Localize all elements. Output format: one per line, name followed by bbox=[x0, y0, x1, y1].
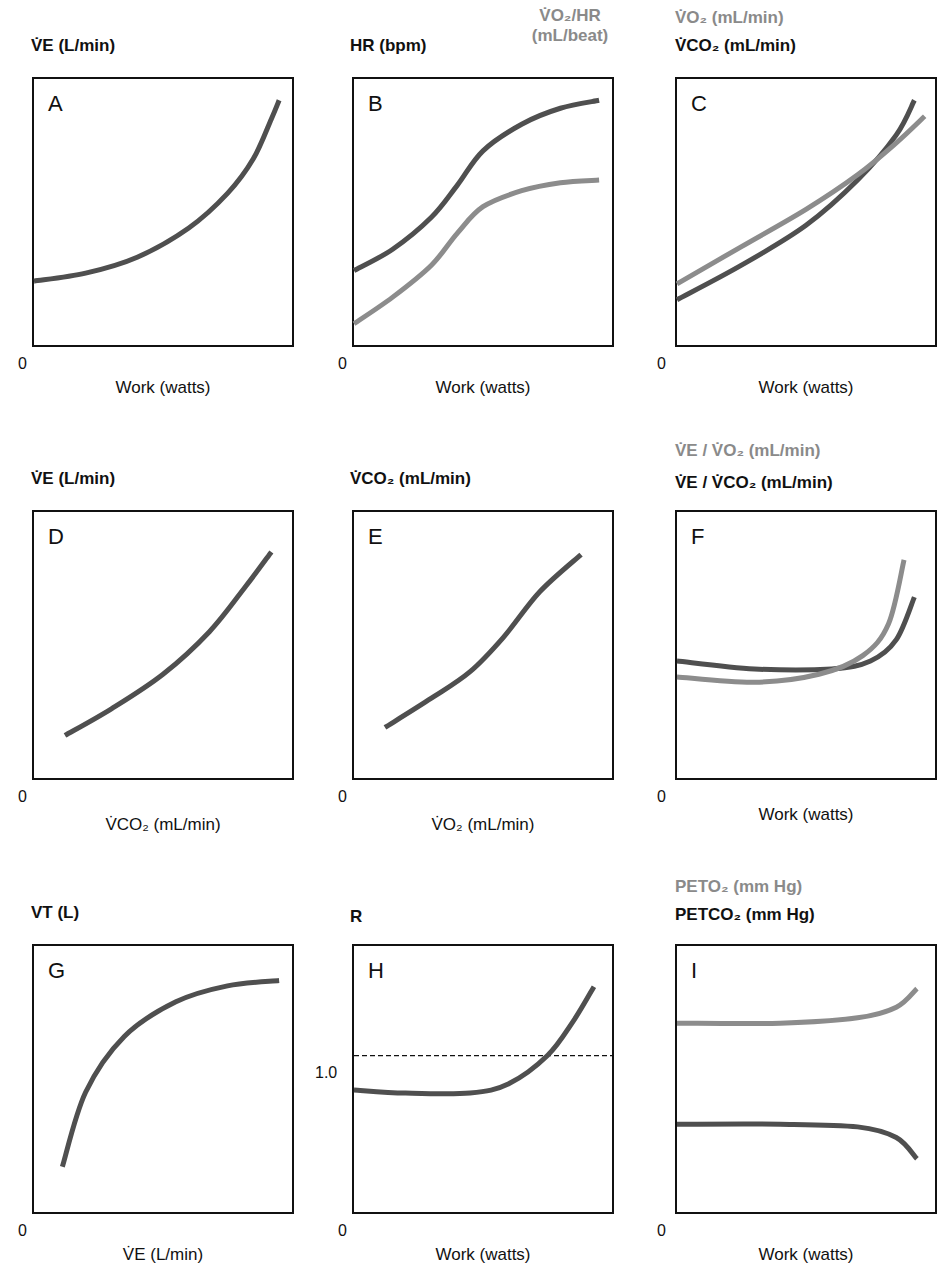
series-curve bbox=[62, 981, 279, 1167]
y-axis-label: PETCO₂ (mm Hg) bbox=[675, 905, 815, 925]
x-axis-label: Work (watts) bbox=[352, 1245, 614, 1265]
chart-svg bbox=[354, 946, 612, 1212]
chart-svg bbox=[677, 946, 935, 1212]
chart-svg bbox=[354, 79, 612, 345]
y2-label-line2: (mL/beat) bbox=[520, 26, 620, 46]
chart-svg bbox=[34, 512, 292, 778]
chart-svg bbox=[677, 512, 935, 778]
y-axis-label: V̇E (L/min) bbox=[31, 36, 115, 56]
chart-svg bbox=[677, 79, 935, 345]
x-axis-label: Work (watts) bbox=[675, 805, 937, 825]
plot-area: G bbox=[32, 944, 294, 1214]
chart-svg bbox=[34, 79, 292, 345]
y-axis-label-secondary: V̇E / V̇O₂ (mL/min) bbox=[675, 441, 820, 461]
x-axis-label: Work (watts) bbox=[32, 378, 294, 398]
origin-label: 0 bbox=[657, 788, 666, 806]
origin-label: 0 bbox=[18, 355, 27, 373]
x-axis-label: V̇E (L/min) bbox=[32, 1245, 294, 1265]
series-curve bbox=[65, 552, 271, 736]
series-curve bbox=[677, 116, 925, 284]
panel-b: HR (bpm) V̇O₂/HR (mL/beat) B 0 Work (wat… bbox=[320, 0, 620, 390]
series-curve bbox=[677, 1124, 917, 1159]
x-axis-label: Work (watts) bbox=[675, 378, 937, 398]
panel-c: V̇O₂ (mL/min) V̇CO₂ (mL/min) C 0 Work (w… bbox=[642, 0, 942, 390]
plot-area: F bbox=[675, 510, 937, 780]
y2-label-line1: V̇O₂/HR bbox=[520, 6, 620, 26]
panel-a: V̇E (L/min) A 0 Work (watts) bbox=[0, 0, 300, 390]
origin-label: 0 bbox=[338, 355, 347, 373]
y-axis-label-secondary: V̇O₂/HR (mL/beat) bbox=[520, 6, 620, 46]
origin-label: 0 bbox=[18, 1222, 27, 1240]
plot-area: A bbox=[32, 77, 294, 347]
y-axis-label: R bbox=[350, 907, 362, 927]
plot-area: E bbox=[352, 510, 614, 780]
plot-area: D bbox=[32, 510, 294, 780]
y-axis-label: V̇CO₂ (mL/min) bbox=[675, 36, 796, 56]
x-axis-label: Work (watts) bbox=[352, 378, 614, 398]
panel-e: V̇CO₂ (mL/min) E 0 V̇O₂ (mL/min) bbox=[320, 433, 620, 823]
origin-label: 0 bbox=[338, 788, 347, 806]
series-curve bbox=[34, 100, 279, 281]
chart-svg bbox=[34, 946, 292, 1212]
x-axis-label: Work (watts) bbox=[675, 1245, 937, 1265]
y-axis-label-secondary: PETO₂ (mm Hg) bbox=[675, 877, 802, 897]
chart-svg bbox=[354, 512, 612, 778]
y-axis-label: V̇CO₂ (mL/min) bbox=[350, 469, 471, 489]
y-axis-label: VT (L) bbox=[31, 903, 79, 923]
panel-i: PETO₂ (mm Hg) PETCO₂ (mm Hg) I 0 Work (w… bbox=[642, 867, 942, 1257]
y-axis-label: HR (bpm) bbox=[350, 36, 426, 56]
plot-area: H bbox=[352, 944, 614, 1214]
x-axis-label: V̇O₂ (mL/min) bbox=[352, 815, 614, 835]
origin-label: 0 bbox=[657, 1222, 666, 1240]
origin-label: 0 bbox=[338, 1222, 347, 1240]
y-axis-label: V̇E (L/min) bbox=[31, 469, 115, 489]
panel-f: V̇E / V̇O₂ (mL/min) V̇E / V̇CO₂ (mL/min)… bbox=[642, 433, 942, 823]
panel-h: R H 1.0 0 Work (watts) bbox=[320, 867, 620, 1257]
series-curve bbox=[354, 100, 599, 270]
y-axis-label-secondary: V̇O₂ (mL/min) bbox=[675, 8, 784, 28]
x-axis-label: V̇CO₂ (mL/min) bbox=[32, 815, 294, 835]
plot-area: B bbox=[352, 77, 614, 347]
series-curve bbox=[677, 597, 914, 670]
plot-area: I bbox=[675, 944, 937, 1214]
panel-d: V̇E (L/min) D 0 V̇CO₂ (mL/min) bbox=[0, 433, 300, 823]
series-curve bbox=[677, 989, 917, 1024]
y-axis-label: V̇E / V̇CO₂ (mL/min) bbox=[675, 473, 833, 493]
origin-label: 0 bbox=[18, 788, 27, 806]
panel-g: VT (L) G 0 V̇E (L/min) bbox=[0, 867, 300, 1257]
reference-tick-label: 1.0 bbox=[315, 1064, 337, 1082]
figure-caption-cutoff bbox=[20, 1266, 930, 1279]
series-curve bbox=[354, 987, 594, 1094]
series-curve bbox=[385, 555, 581, 728]
series-curve bbox=[677, 100, 914, 300]
plot-area: C bbox=[675, 77, 937, 347]
origin-label: 0 bbox=[657, 355, 666, 373]
